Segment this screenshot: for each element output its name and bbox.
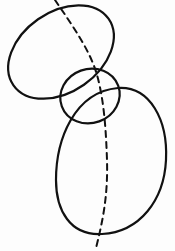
upper-oval xyxy=(0,0,131,118)
diagram-canvas xyxy=(0,0,175,251)
lower-oval xyxy=(56,88,166,234)
oval-diagram xyxy=(0,0,175,251)
